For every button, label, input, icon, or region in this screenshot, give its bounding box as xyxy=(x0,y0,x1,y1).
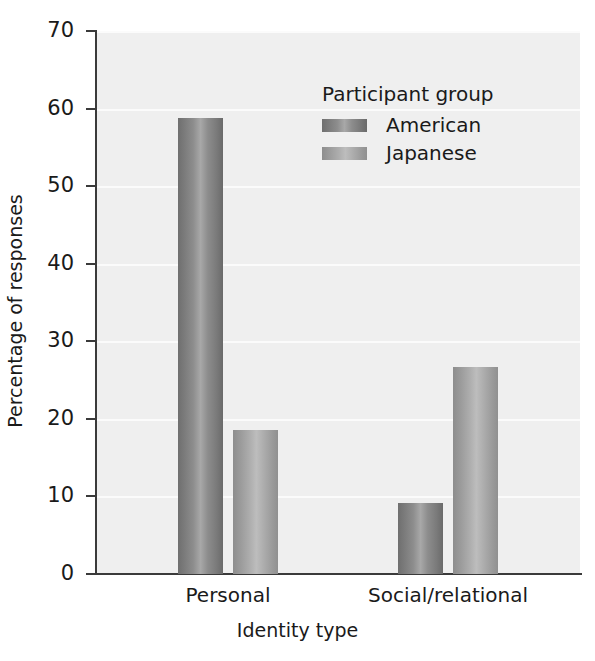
gridline xyxy=(97,31,580,33)
y-axis-tick-label: 40 xyxy=(22,253,74,274)
gridline xyxy=(97,186,580,188)
y-axis-title: Percentage of responses xyxy=(4,91,26,531)
y-axis-tick-label: 10 xyxy=(22,485,74,506)
y-axis-tick xyxy=(86,340,97,342)
legend-swatch-japanese-icon xyxy=(322,147,367,160)
y-axis-tick xyxy=(86,573,97,575)
legend-label-american: American xyxy=(386,113,481,137)
bar-american-social-relational xyxy=(398,503,443,574)
legend-swatch-american-icon xyxy=(322,119,367,132)
y-axis-line xyxy=(95,30,97,575)
y-axis-tick xyxy=(86,108,97,110)
y-axis-tick xyxy=(86,495,97,497)
x-axis-title: Identity type xyxy=(0,619,595,641)
y-axis-tick-label: 30 xyxy=(22,330,74,351)
y-axis-tick-label: 0 xyxy=(22,563,74,584)
y-axis-tick-label: 60 xyxy=(22,98,74,119)
legend: Participant group American Japanese xyxy=(322,82,494,171)
bar-japanese-social-relational xyxy=(453,367,498,574)
y-axis-tick xyxy=(86,30,97,32)
y-axis-tick xyxy=(86,263,97,265)
y-axis-tick xyxy=(86,418,97,420)
bar-american-personal xyxy=(178,118,223,574)
legend-title: Participant group xyxy=(322,82,494,106)
gridline xyxy=(97,496,580,498)
gridline xyxy=(97,341,580,343)
gridline xyxy=(97,264,580,266)
legend-label-japanese: Japanese xyxy=(386,141,477,165)
legend-item-japanese: Japanese xyxy=(322,143,494,163)
bar-japanese-personal xyxy=(233,430,278,574)
legend-item-american: American xyxy=(322,115,494,135)
x-axis-line xyxy=(95,573,582,575)
y-axis-tick-label: 20 xyxy=(22,408,74,429)
y-axis-tick xyxy=(86,185,97,187)
bar-chart: 010203040506070 Percentage of responses … xyxy=(0,0,595,661)
y-axis-tick-label: 50 xyxy=(22,175,74,196)
gridline xyxy=(97,419,580,421)
y-axis-tick-label: 70 xyxy=(22,20,74,41)
x-axis-tick-label: Social/relational xyxy=(298,583,595,607)
